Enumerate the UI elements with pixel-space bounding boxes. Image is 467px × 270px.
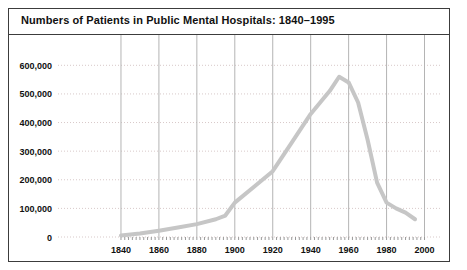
horizontal-gridlines-group xyxy=(58,65,442,237)
y-axis-tick-label: 400,000 xyxy=(19,118,52,128)
y-axis-tick-label: 200,000 xyxy=(19,175,52,185)
x-axis-tick-label: 1960 xyxy=(339,245,359,255)
plot-area-wrapper: 0100,000200,000300,000400,000500,000600,… xyxy=(9,35,449,262)
page-title: Numbers of Patients in Public Mental Hos… xyxy=(21,14,335,26)
x-axis-tick-label: 1860 xyxy=(149,245,169,255)
x-axis-tick-label: 1900 xyxy=(225,245,245,255)
axis-tick-marks-group xyxy=(121,237,425,240)
x-axis-tick-label: 1840 xyxy=(111,245,131,255)
y-axis-tick-label: 100,000 xyxy=(19,204,52,214)
y-axis-tick-label: 0 xyxy=(47,233,52,243)
data-series-line xyxy=(121,77,415,236)
x-axis-tick-label: 1980 xyxy=(377,245,397,255)
y-axis-tick-label: 600,000 xyxy=(19,61,52,71)
chart-title-bar: Numbers of Patients in Public Mental Hos… xyxy=(9,9,449,35)
x-axis-tick-label: 1940 xyxy=(301,245,321,255)
x-axis-tick-labels-group: 184018601880190019201940196019802000 xyxy=(111,245,435,255)
x-axis-tick-label: 1920 xyxy=(263,245,283,255)
chart-figure: Numbers of Patients in Public Mental Hos… xyxy=(8,8,450,262)
y-axis-tick-labels-group: 0100,000200,000300,000400,000500,000600,… xyxy=(19,61,52,243)
y-axis-tick-label: 500,000 xyxy=(19,89,52,99)
x-axis-tick-label: 2000 xyxy=(414,245,434,255)
y-axis-tick-label: 300,000 xyxy=(19,147,52,157)
x-axis-tick-label: 1880 xyxy=(187,245,207,255)
line-chart: 0100,000200,000300,000400,000500,000600,… xyxy=(9,35,449,262)
